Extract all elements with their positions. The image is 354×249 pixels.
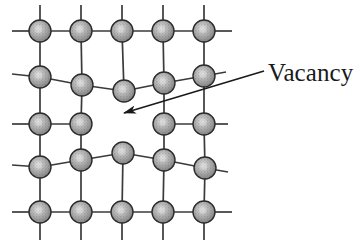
atom-node xyxy=(193,20,215,42)
atom-node xyxy=(193,65,215,87)
atom-highlight xyxy=(76,155,83,162)
atom-highlight xyxy=(119,86,126,93)
atom-node xyxy=(152,201,174,223)
atom-highlight xyxy=(158,26,165,33)
atom-node xyxy=(193,113,215,135)
atom-node xyxy=(70,20,92,42)
atom-node xyxy=(29,20,51,42)
atom-highlight xyxy=(35,26,42,33)
atom-node xyxy=(111,20,133,42)
atom-highlight xyxy=(76,119,83,126)
atom-node xyxy=(70,201,92,223)
atom-node xyxy=(153,72,175,94)
atom-highlight xyxy=(117,207,124,214)
atom-highlight xyxy=(159,119,166,126)
atom-highlight xyxy=(200,163,207,170)
vacancy-label: Vacancy xyxy=(268,58,353,88)
atom-node xyxy=(29,156,51,178)
atom-node xyxy=(70,113,92,135)
atom-node xyxy=(29,201,51,223)
atom-highlight xyxy=(199,71,206,78)
atom-node xyxy=(193,201,215,223)
atom-highlight xyxy=(35,207,42,214)
atom-node xyxy=(152,20,174,42)
atom-node xyxy=(113,80,135,102)
atom-highlight xyxy=(77,80,84,87)
atom-highlight xyxy=(117,26,124,33)
atom-highlight xyxy=(35,72,42,79)
atom-node xyxy=(29,66,51,88)
atom-node xyxy=(153,113,175,135)
atom-node xyxy=(70,149,92,171)
atom-highlight xyxy=(35,119,42,126)
lattice-vacancy-figure: Vacancy xyxy=(0,0,354,249)
lattice-diagram xyxy=(0,0,354,249)
atom-highlight xyxy=(199,119,206,126)
atom-highlight xyxy=(199,207,206,214)
atom-highlight xyxy=(118,148,125,155)
atom-node xyxy=(111,201,133,223)
atom-highlight xyxy=(76,207,83,214)
atom-node xyxy=(194,157,216,179)
atom-node xyxy=(153,149,175,171)
atom-highlight xyxy=(35,162,42,169)
atom-highlight xyxy=(199,26,206,33)
atom-highlight xyxy=(76,26,83,33)
atom-highlight xyxy=(159,155,166,162)
atom-highlight xyxy=(159,78,166,85)
atom-node xyxy=(71,74,93,96)
atom-node xyxy=(29,113,51,135)
atom-node xyxy=(112,142,134,164)
atom-highlight xyxy=(158,207,165,214)
